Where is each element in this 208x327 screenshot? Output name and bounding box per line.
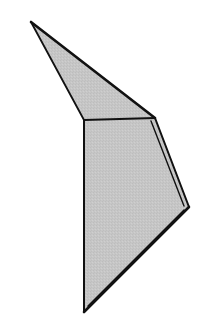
lower-quad-face — [84, 118, 189, 312]
diagram-canvas — [0, 0, 208, 327]
polyhedron-figure — [0, 0, 208, 327]
